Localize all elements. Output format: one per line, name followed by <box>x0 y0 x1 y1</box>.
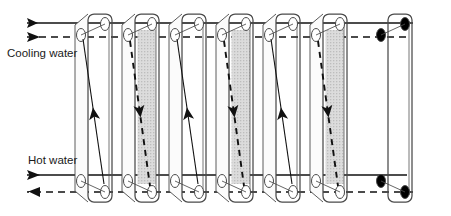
plate-heat-exchanger-diagram: Cooling water Hot water <box>0 0 451 216</box>
plate-5-back-face <box>263 14 276 202</box>
plate-4-back-face <box>216 14 229 202</box>
hot-water-label: Hot water <box>28 154 77 166</box>
plate-6-back-face <box>310 14 323 202</box>
plate-4-cooling <box>216 14 253 202</box>
plate-1-back-face <box>75 14 88 202</box>
cooling-water-label: Cooling water <box>7 47 77 59</box>
plate-3-back-face <box>169 14 182 202</box>
diagram-canvas: Cooling water Hot water <box>0 0 451 216</box>
plate-2-cooling <box>122 14 159 202</box>
plate-2-back-face <box>122 14 135 202</box>
plate-6-cooling <box>310 14 347 202</box>
